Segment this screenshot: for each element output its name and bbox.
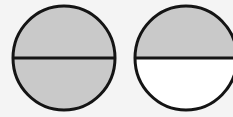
circle-both-halves-shaded	[13, 6, 115, 110]
fraction-circles-diagram	[0, 0, 233, 117]
top-half-shaded	[135, 6, 233, 58]
bottom-half-shaded	[13, 58, 115, 110]
circle-top-half-shaded	[135, 6, 233, 110]
bottom-half-unshaded	[135, 58, 233, 110]
top-half-shaded	[13, 6, 115, 58]
